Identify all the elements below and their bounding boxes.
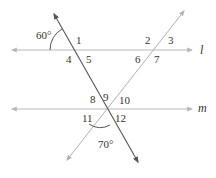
angle-label-7: 7 [154, 53, 160, 65]
angle-label-5: 5 [86, 53, 92, 65]
angle-arc-70 [89, 124, 110, 128]
angle-label-6: 6 [135, 53, 141, 65]
geometry-diagram: 1 2 3 4 5 6 7 8 9 10 11 12 60° 70° l m [0, 0, 216, 178]
angle-label-8: 8 [90, 93, 96, 105]
angle-measure-70: 70° [98, 138, 113, 150]
transversal-steep [54, 14, 138, 162]
angle-arc-60 [50, 29, 62, 50]
transversal-rising [67, 11, 184, 160]
angle-label-9: 9 [103, 91, 109, 103]
angle-label-11: 11 [82, 112, 93, 124]
line-label-l: l [200, 43, 204, 57]
angle-label-12: 12 [115, 112, 126, 124]
angle-label-4: 4 [66, 53, 72, 65]
angle-label-3: 3 [168, 34, 174, 46]
line-label-m: m [198, 101, 207, 115]
angle-label-2: 2 [145, 34, 151, 46]
angle-label-10: 10 [119, 94, 131, 106]
angle-label-1: 1 [76, 34, 82, 46]
angle-measure-60: 60° [36, 29, 51, 41]
